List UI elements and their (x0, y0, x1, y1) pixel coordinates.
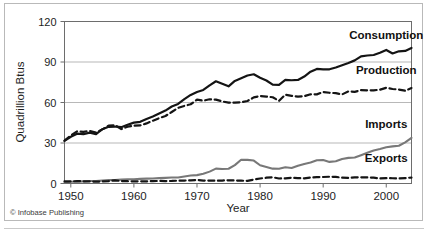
series-label-production: Production (356, 64, 417, 76)
x-axis-title: Year (226, 202, 249, 214)
chart-figure: 0306090120 195019601970198019902000 Cons… (0, 0, 429, 241)
y-tick-label-0: 0 (50, 178, 56, 190)
x-tick-label-1970: 1970 (184, 190, 210, 202)
y-tick-label-30: 30 (44, 137, 56, 149)
series-line-imports (65, 138, 412, 182)
x-tick-label-1950: 1950 (58, 190, 84, 202)
y-axis-tick-labels: 0306090120 (38, 16, 56, 190)
x-tick-label-1960: 1960 (121, 190, 147, 202)
x-tick-label-1990: 1990 (310, 190, 336, 202)
x-tick-label-1980: 1980 (247, 190, 273, 202)
axis-tickmarks (61, 22, 387, 188)
line-chart-svg: 0306090120 195019601970198019902000 Cons… (0, 0, 429, 241)
series-label-consumption: Consumption (349, 29, 423, 41)
publisher-credit: © Infobase Publishing (10, 208, 84, 217)
y-tick-label-120: 120 (38, 16, 56, 28)
x-tick-label-2000: 2000 (373, 190, 399, 202)
x-axis-tick-labels: 195019601970198019902000 (58, 190, 399, 202)
series-label-exports: Exports (365, 152, 408, 164)
y-tick-label-60: 60 (44, 97, 56, 109)
series-line-production (65, 88, 412, 141)
series-label-imports: Imports (365, 118, 407, 130)
y-axis-title: Quadrillion Btus (14, 61, 26, 142)
y-tick-label-90: 90 (44, 56, 56, 68)
